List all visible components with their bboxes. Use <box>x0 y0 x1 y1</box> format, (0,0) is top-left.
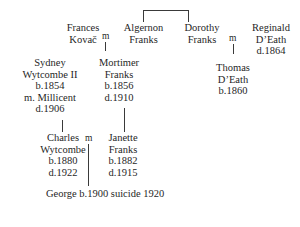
sibling-bracket-stem-left <box>143 10 144 22</box>
person-mortimer-franks-line4: d.1910 <box>90 92 148 104</box>
person-sydney-wytcombe: Sydney Wytcombe II b.1854 m. Millicent d… <box>12 57 88 115</box>
person-thomas-death-line1: Thomas <box>206 62 260 74</box>
descent-line-mortimer-janette <box>124 108 125 132</box>
person-charles-wytcombe-line2: Wytcombe <box>33 144 93 156</box>
person-charles-wytcombe-line3: b.1880 <box>33 155 93 167</box>
person-mortimer-franks-line2: Franks <box>90 69 148 81</box>
person-mortimer-franks-line1: Mortimer <box>90 57 148 69</box>
person-sydney-wytcombe-line3: b.1854 <box>12 80 88 92</box>
person-reginald-death-line1: Reginald <box>244 22 298 34</box>
marriage-symbol-dorothy-reginald: m <box>229 33 236 43</box>
person-george-line2: suicide 1920 <box>111 188 164 199</box>
person-dorothy-franks-line2: Franks <box>176 34 228 46</box>
person-charles-wytcombe-line4: d.1922 <box>33 167 93 179</box>
person-janette-franks-line1: Janette <box>97 132 149 144</box>
person-sydney-wytcombe-line1: Sydney <box>12 57 88 69</box>
person-mortimer-franks: Mortimer Franks b.1856 d.1910 <box>90 57 148 103</box>
person-janette-franks-line3: b.1882 <box>97 155 149 167</box>
person-thomas-death-line2: D’Eath <box>206 74 260 86</box>
person-janette-franks: Janette Franks b.1882 d.1915 <box>97 132 149 178</box>
descent-line-sydney-charles <box>62 120 63 132</box>
person-dorothy-franks-line1: Dorothy <box>176 22 228 34</box>
person-thomas-death-line3: b.1860 <box>206 85 260 97</box>
person-janette-franks-line4: d.1915 <box>97 167 149 179</box>
person-algernon-franks: Algernon Franks <box>115 22 172 45</box>
marriage-line-frances-mortimer <box>105 42 106 51</box>
person-reginald-death-line3: d.1864 <box>244 45 298 57</box>
sibling-bracket-horizontal <box>143 10 189 11</box>
marriage-line-charles-janette <box>88 144 89 186</box>
person-dorothy-franks: Dorothy Franks <box>176 22 228 45</box>
person-sydney-wytcombe-line4: m. Millicent <box>12 92 88 104</box>
person-charles-wytcombe: Charles Wytcombe b.1880 d.1922 <box>33 132 93 178</box>
person-sydney-wytcombe-line5: d.1906 <box>12 103 88 115</box>
family-tree-diagram: Frances Kovač Algernon Franks Dorothy Fr… <box>0 0 300 227</box>
marriage-symbol-charles-janette: m <box>85 133 92 143</box>
person-reginald-death: Reginald D’Eath d.1864 <box>244 22 298 57</box>
person-algernon-franks-line1: Algernon <box>115 22 172 34</box>
person-mortimer-franks-line3: b.1856 <box>90 80 148 92</box>
person-algernon-franks-line2: Franks <box>115 34 172 46</box>
sibling-bracket-stem-right <box>188 10 189 22</box>
person-thomas-death: Thomas D’Eath b.1860 <box>206 62 260 97</box>
marriage-line-dorothy-reginald <box>233 44 234 54</box>
person-george-line1: George b.1900 <box>46 188 108 199</box>
person-reginald-death-line2: D’Eath <box>244 34 298 46</box>
person-sydney-wytcombe-line2: Wytcombe II <box>12 69 88 81</box>
marriage-symbol-frances-mortimer: m <box>102 31 109 41</box>
person-janette-franks-line2: Franks <box>97 144 149 156</box>
person-charles-wytcombe-line1: Charles <box>33 132 93 144</box>
person-george: George b.1900 suicide 1920 <box>46 188 130 200</box>
